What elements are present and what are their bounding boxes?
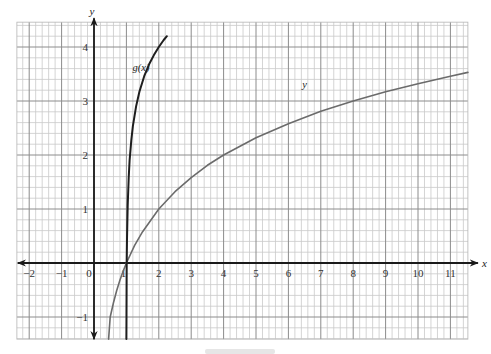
x-tick-label: 0	[86, 267, 92, 279]
figure-caption-cropped	[205, 349, 275, 354]
x-tick-label: −2	[23, 267, 35, 279]
x-tick-label: 6	[286, 267, 292, 279]
x-axis-label: x	[481, 257, 487, 269]
y-tick-label: 1	[83, 203, 89, 215]
curve-label: y	[301, 79, 307, 90]
grid-minor-lines	[17, 22, 468, 339]
x-tick-label: −1	[56, 267, 68, 279]
y-tick-label: 2	[83, 149, 89, 161]
tick-labels: −2−101234567891011−11234	[23, 41, 455, 323]
y-tick-label: 3	[83, 95, 89, 107]
x-tick-label: 8	[350, 267, 356, 279]
y-axis-label: y	[89, 5, 95, 17]
grid-border	[17, 22, 468, 339]
x-tick-label: 11	[445, 267, 456, 279]
curve-label: g(x)	[133, 62, 150, 74]
x-tick-label: 4	[221, 267, 227, 279]
y-tick-label: −1	[76, 311, 88, 323]
x-tick-label: 3	[188, 267, 194, 279]
x-tick-label: 5	[253, 267, 259, 279]
chart: −2−101234567891011−11234 xyyg(x)	[0, 0, 491, 354]
x-tick-label: 10	[413, 267, 425, 279]
y-tick-label: 4	[83, 41, 89, 53]
x-tick-label: 2	[156, 267, 162, 279]
axes	[18, 18, 478, 339]
x-tick-label: 7	[318, 267, 324, 279]
x-tick-label: 9	[383, 267, 389, 279]
axis-labels: xyyg(x)	[89, 5, 487, 269]
grid-major-lines	[17, 22, 468, 339]
